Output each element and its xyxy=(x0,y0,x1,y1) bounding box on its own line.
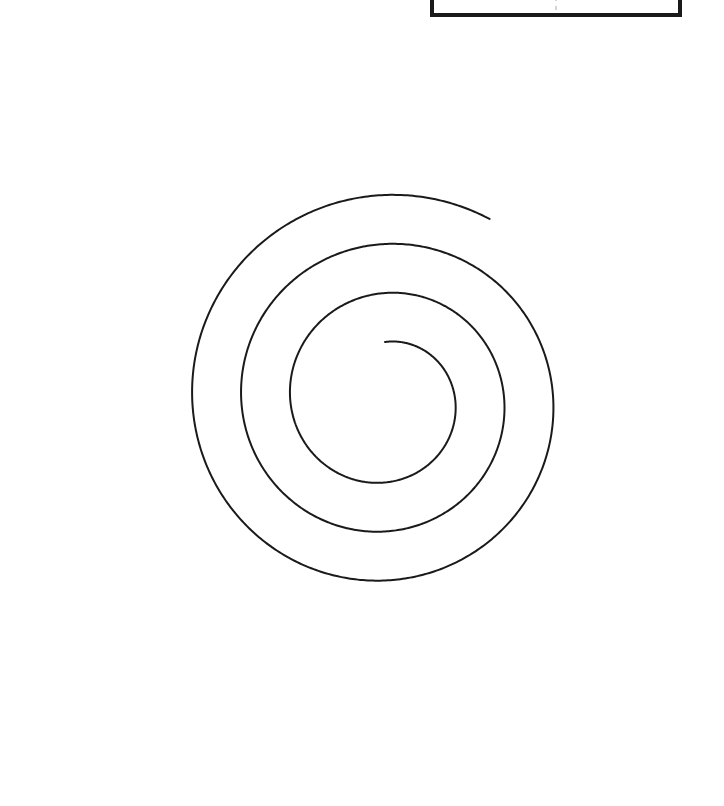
spiral-figure xyxy=(0,0,724,806)
drawing-canvas xyxy=(0,0,724,806)
canvas-background xyxy=(0,0,724,806)
